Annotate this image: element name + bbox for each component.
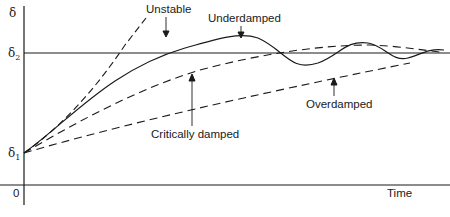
y-axis-label: δ — [9, 6, 16, 20]
underdamped-label: Underdamped — [208, 12, 281, 24]
unstable-arrow — [163, 17, 169, 37]
critically-damped-arrow — [189, 74, 195, 126]
critically-damped-label: Critically damped — [151, 128, 239, 140]
unstable-curve — [24, 18, 146, 153]
unstable-label: Unstable — [146, 3, 191, 15]
x-axis-label: Time — [387, 187, 412, 199]
origin-label: 0 — [13, 187, 19, 199]
delta2-label: δ2 — [8, 46, 20, 62]
overdamped-arrow — [331, 78, 337, 96]
delta1-label: δ1 — [8, 146, 20, 162]
response-diagram: Unstable Underdamped Critically damped O… — [0, 0, 450, 217]
overdamped-label: Overdamped — [306, 98, 372, 110]
